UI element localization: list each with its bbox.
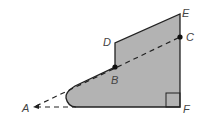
label-b: B: [111, 74, 118, 86]
point-c: [177, 34, 182, 39]
arrowhead-a: [33, 104, 39, 109]
shaded-region: [66, 14, 180, 107]
label-c: C: [186, 31, 194, 43]
label-f: F: [183, 103, 191, 115]
geometry-diagram: A B C D E F: [0, 0, 205, 122]
label-a: A: [21, 102, 29, 114]
label-d: D: [103, 36, 111, 48]
label-e: E: [182, 7, 190, 19]
point-b: [112, 64, 117, 69]
